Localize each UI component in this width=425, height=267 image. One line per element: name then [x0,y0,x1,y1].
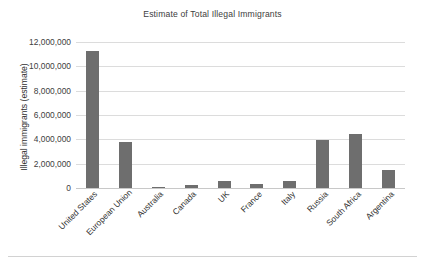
y-tick-label: 6,000,000 [0,110,71,120]
bars-layer [76,42,405,188]
y-tick-label: 8,000,000 [0,86,71,96]
bar[interactable] [119,142,132,188]
chart-title: Estimate of Total Illegal Immigrants [0,9,425,19]
plot-area [76,42,405,188]
bar[interactable] [152,187,165,188]
bar[interactable] [283,181,296,188]
x-axis-tick-labels: United StatesEuropean UnionAustraliaCana… [76,189,405,255]
y-tick-label: 12,000,000 [0,37,71,47]
bar[interactable] [86,51,99,188]
bar[interactable] [382,170,395,188]
bar[interactable] [250,184,263,188]
bar[interactable] [218,181,231,188]
y-tick-label: 4,000,000 [0,134,71,144]
y-axis-tick-labels: 02,000,0004,000,0006,000,0008,000,00010,… [0,42,71,188]
bar[interactable] [185,185,198,188]
y-tick-label: 10,000,000 [0,61,71,71]
bar[interactable] [349,134,362,188]
footer-divider [8,256,417,257]
y-tick-label: 2,000,000 [0,159,71,169]
bar[interactable] [316,140,329,188]
y-tick-label: 0 [0,183,71,193]
chart-figure: Estimate of Total Illegal Immigrants Ill… [0,0,425,267]
